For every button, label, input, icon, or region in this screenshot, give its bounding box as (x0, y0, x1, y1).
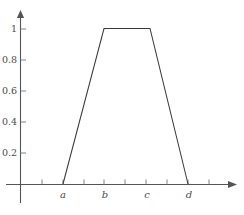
y-tick-label-1: 1 (0, 24, 17, 34)
y-tick-label-0-6: 0.6 (0, 86, 17, 96)
y-tick-label-0-4: 0.4 (0, 117, 17, 127)
y-axis-ticks (21, 29, 27, 153)
chart-plot-area (0, 0, 244, 215)
x-tick-label-a: a (60, 190, 66, 200)
x-axis-arrow-icon (228, 181, 237, 188)
trapezoid-curve (63, 29, 188, 185)
chart-figure: 1 0.8 0.6 0.4 0.2 a b c d (0, 0, 244, 215)
y-tick-label-0-8: 0.8 (0, 55, 17, 65)
x-tick-label-c: c (144, 190, 150, 200)
y-axis-arrow-icon (17, 10, 24, 18)
x-tick-label-d: d (186, 190, 192, 200)
x-axis-ticks (42, 180, 209, 185)
y-tick-label-0-2: 0.2 (0, 148, 17, 158)
x-tick-label-b: b (102, 190, 108, 200)
